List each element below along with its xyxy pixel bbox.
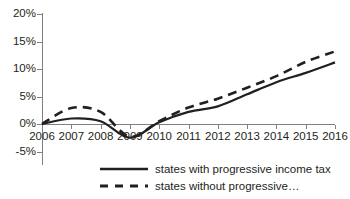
x-axis-labels: 2006200720082009201020112012201320142015…: [0, 130, 345, 146]
y-tick-label: 5%: [4, 91, 36, 103]
y-tick-label: 15%: [4, 36, 36, 48]
legend-swatch-solid-icon: [100, 164, 148, 174]
series-container: [42, 14, 335, 124]
x-tick-label: 2012: [203, 130, 233, 143]
x-tick-2009: [130, 125, 131, 129]
x-tick-2012: [218, 125, 219, 129]
y-tick-label: -5%: [4, 146, 36, 158]
x-tick-label: 2007: [56, 130, 86, 143]
x-tick-2008: [101, 125, 102, 129]
series-line-dashed: [42, 51, 335, 136]
x-tick-2016: [335, 125, 336, 129]
y-tick-neg5: [37, 152, 42, 153]
x-tick-label: 2010: [144, 130, 174, 143]
x-tick-label: 2016: [320, 130, 350, 143]
legend-label: states without progressive…: [155, 180, 299, 192]
x-tick-label: 2011: [174, 130, 204, 143]
y-tick-label: 10%: [4, 63, 36, 75]
y-tick-label: 20%: [4, 8, 36, 20]
legend-swatch-dashed-icon: [100, 181, 148, 191]
x-tick-2007: [71, 125, 72, 129]
y-tick-label: 0%: [4, 118, 36, 130]
x-tick-label: 2015: [291, 130, 321, 143]
x-tick-2011: [189, 125, 190, 129]
plot-area: [42, 14, 335, 124]
x-tick-label: 2014: [261, 130, 291, 143]
x-tick-2006: [42, 125, 43, 129]
chart-legend: states with progressive income taxstates…: [0, 160, 345, 194]
legend-label: states with progressive income tax: [155, 163, 331, 175]
x-tick-2015: [306, 125, 307, 129]
x-tick-label: 2008: [86, 130, 116, 143]
x-tick-label: 2006: [27, 130, 57, 143]
legend-item[interactable]: states with progressive income tax: [0, 160, 345, 177]
x-tick-2010: [159, 125, 160, 129]
x-tick-label: 2013: [232, 130, 262, 143]
x-tick-2013: [247, 125, 248, 129]
legend-item[interactable]: states without progressive…: [0, 177, 345, 194]
x-tick-label: 2009: [115, 130, 145, 143]
x-tick-2014: [276, 125, 277, 129]
